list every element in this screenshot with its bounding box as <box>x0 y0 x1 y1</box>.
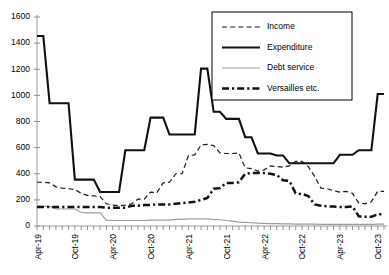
x-tick-label: Oct-21 <box>222 234 232 260</box>
x-tick-labels: Apr-19Oct-19Apr-20Oct-20Apr-21Oct-21Apr-… <box>33 234 384 260</box>
legend: IncomeExpenditureDebt serviceVersailles … <box>212 12 352 100</box>
x-tick-label: Apr-20 <box>108 234 118 260</box>
x-axis: Apr-19Oct-19Apr-20Oct-20Apr-21Oct-21Apr-… <box>33 226 388 260</box>
y-axis: 02004006008001000120014001600 <box>11 11 40 230</box>
y-tick-label: 0 <box>25 220 30 230</box>
series-line-income <box>37 144 384 205</box>
y-tick-label: 1400 <box>11 37 30 47</box>
chart-container: 02004006008001000120014001600 Apr-19Oct-… <box>0 0 389 275</box>
y-tick-label: 1000 <box>11 90 30 100</box>
x-tick-label: Apr-23 <box>335 234 345 260</box>
y-tick-label: 1200 <box>11 64 30 74</box>
y-tick-label: 400 <box>16 168 30 178</box>
y-tick-label: 200 <box>16 194 30 204</box>
y-tick-label: 1600 <box>11 11 30 21</box>
x-tick-label: Apr-22 <box>260 234 270 260</box>
legend-label: Debt service <box>267 62 315 72</box>
y-tick-label: 800 <box>16 116 30 126</box>
x-tick-label: Apr-19 <box>33 234 43 260</box>
y-tick-labels: 02004006008001000120014001600 <box>11 11 30 230</box>
x-tick-marks <box>37 226 384 230</box>
x-tick-label: Apr-21 <box>184 234 194 260</box>
legend-label: Expenditure <box>267 42 313 52</box>
x-tick-label: Oct-20 <box>146 234 156 260</box>
legend-label: Versailles etc. <box>267 83 319 93</box>
x-tick-label: Oct-23 <box>373 234 383 260</box>
x-tick-label: Oct-19 <box>70 234 80 260</box>
series-line-debt-service <box>37 206 384 224</box>
line-chart: 02004006008001000120014001600 Apr-19Oct-… <box>0 0 389 275</box>
y-tick-label: 600 <box>16 142 30 152</box>
legend-label: Income <box>267 21 295 31</box>
x-tick-label: Oct-22 <box>297 234 307 260</box>
